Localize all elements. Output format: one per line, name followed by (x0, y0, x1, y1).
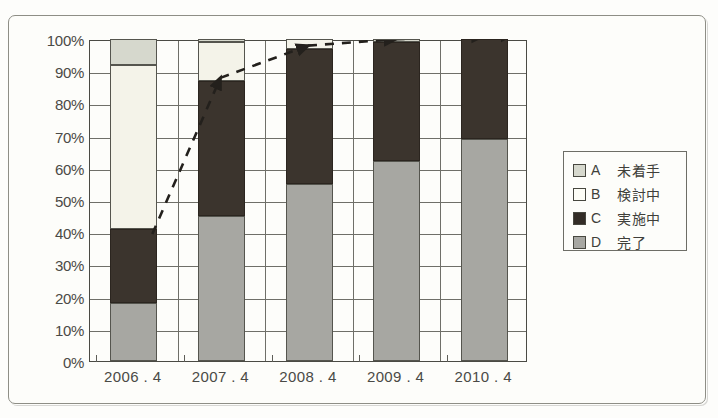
y-tick-label: 0% (24, 355, 84, 370)
bar-segment-D (286, 184, 333, 361)
bar-segment-A (110, 39, 157, 65)
legend-key: D (591, 234, 617, 250)
y-tick-label: 30% (24, 258, 84, 273)
legend-label: 実施中 (617, 208, 661, 228)
bar-segment-B (198, 42, 245, 81)
bar-2006-4[interactable] (110, 39, 157, 361)
y-axis: 0%10%20%30%40%50%60%70%80%90%100% (20, 40, 84, 362)
legend-label: 完了 (617, 232, 646, 252)
x-tick-label: 2010 . 4 (454, 368, 511, 385)
x-tick-label: 2008 . 4 (279, 368, 336, 385)
bar-segment-C (373, 42, 420, 161)
bar-segment-D (373, 161, 420, 361)
x-tick-mark (96, 355, 97, 362)
legend-label: 検討中 (617, 184, 661, 204)
bar-segment-A (373, 39, 420, 42)
gridline-vertical (440, 41, 441, 361)
bar-segment-C (198, 81, 245, 216)
legend-item-A[interactable]: A未着手 (573, 158, 686, 182)
bar-segment-B (286, 39, 333, 49)
y-tick-label: 70% (24, 129, 84, 144)
bar-segment-C (286, 49, 333, 184)
plot-area (89, 40, 527, 362)
legend: A未着手B検討中C実施中D完了 (563, 151, 687, 251)
legend-key: A (591, 162, 617, 178)
x-tick-mark (184, 355, 185, 362)
legend-swatch-icon (573, 188, 586, 201)
legend-item-B[interactable]: B検討中 (573, 182, 686, 206)
bar-segment-C (461, 39, 508, 139)
legend-swatch-icon (573, 236, 586, 249)
chart-screenshot: 0%10%20%30%40%50%60%70%80%90%100% 2006 .… (0, 0, 718, 418)
bar-2007-4[interactable] (198, 39, 245, 361)
legend-swatch-icon (573, 212, 586, 225)
y-tick-label: 90% (24, 65, 84, 80)
y-tick-label: 60% (24, 161, 84, 176)
legend-key: C (591, 210, 617, 226)
bar-segment-A (198, 39, 245, 42)
legend-label: 未着手 (617, 160, 661, 180)
legend-swatch-icon (573, 164, 586, 177)
y-tick-label: 20% (24, 290, 84, 305)
y-tick-label: 40% (24, 226, 84, 241)
bar-segment-D (198, 216, 245, 361)
bar-segment-B (110, 65, 157, 229)
x-tick-mark (272, 355, 273, 362)
legend-item-C[interactable]: C実施中 (573, 206, 686, 230)
y-tick-label: 80% (24, 97, 84, 112)
y-tick-label: 10% (24, 322, 84, 337)
gridline-vertical (353, 41, 354, 361)
x-tick-label: 2006 . 4 (104, 368, 161, 385)
bar-segment-D (461, 139, 508, 361)
bar-2009-4[interactable] (373, 39, 420, 361)
x-tick-label: 2007 . 4 (192, 368, 249, 385)
y-tick-label: 100% (24, 33, 84, 48)
gridline-vertical (178, 41, 179, 361)
x-tick-mark (447, 355, 448, 362)
legend-key: B (591, 186, 617, 202)
bar-2008-4[interactable] (286, 39, 333, 361)
bar-segment-D (110, 303, 157, 361)
bar-segment-C (110, 229, 157, 303)
x-tick-label: 2009 . 4 (367, 368, 424, 385)
gridline-vertical (265, 41, 266, 361)
x-tick-mark (359, 355, 360, 362)
bar-2010-4[interactable] (461, 39, 508, 361)
y-tick-label: 50% (24, 194, 84, 209)
legend-item-D[interactable]: D完了 (573, 230, 686, 254)
